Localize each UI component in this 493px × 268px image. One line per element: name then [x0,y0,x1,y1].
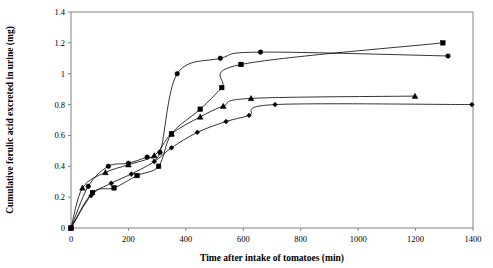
y-axis-ticks: 00.20.40.60.811.21.4 [54,7,71,233]
x-tick-label: 800 [294,234,307,244]
data-point-diamond [129,172,134,177]
data-series [68,93,418,230]
y-tick-label: 0.6 [54,130,65,140]
y-axis-title: Cumulative ferulic acid excreted in urin… [5,26,16,214]
data-point-triangle [103,170,109,175]
x-axis-title: Time after intake of tomatoes (min) [200,253,344,264]
x-tick-label: 400 [179,234,192,244]
x-tick-label: 0 [69,234,73,244]
chart-plot-area: 0200400600800100012001400 00.20.40.60.81… [0,0,493,268]
x-tick-label: 1400 [465,234,482,244]
chart-figure: 0200400600800100012001400 00.20.40.60.81… [0,0,493,268]
data-point-diamond [195,130,200,135]
y-tick-label: 0.8 [54,100,65,110]
data-point-circle [86,184,91,189]
data-point-square [156,164,161,169]
series-line [71,52,448,228]
data-series [69,41,445,231]
data-point-diamond [273,102,278,107]
data-point-triangle [197,114,203,119]
x-axis-ticks: 0200400600800100012001400 [69,228,482,244]
y-tick-label: 0.4 [54,161,65,171]
data-point-circle [106,164,111,169]
data-series-layer [68,41,474,231]
data-point-circle [175,71,180,76]
data-point-triangle [220,103,226,108]
data-point-diamond [109,181,114,186]
data-point-circle [446,54,451,59]
series-line [71,96,415,228]
data-point-diamond [469,102,474,107]
data-point-circle [218,56,223,61]
x-tick-label: 1000 [350,234,367,244]
y-tick-label: 1.2 [54,38,65,48]
data-point-circle [258,50,263,55]
data-series [69,50,451,230]
y-tick-label: 1.4 [54,7,65,17]
series-line [71,43,443,228]
y-tick-label: 0 [61,223,65,233]
plot-frame [71,12,473,228]
x-tick-label: 1200 [407,234,424,244]
x-tick-label: 600 [237,234,250,244]
data-point-triangle [80,185,86,190]
data-point-square [239,62,244,67]
data-point-diamond [152,159,157,164]
data-point-square [198,107,203,112]
data-point-square [112,186,117,191]
data-point-square [219,85,224,90]
data-point-diamond [224,119,229,124]
y-tick-label: 1 [61,69,65,79]
data-point-square [441,41,446,46]
x-tick-label: 200 [122,234,135,244]
series-line [71,104,472,228]
data-point-square [135,173,140,178]
y-tick-label: 0.2 [54,192,65,202]
